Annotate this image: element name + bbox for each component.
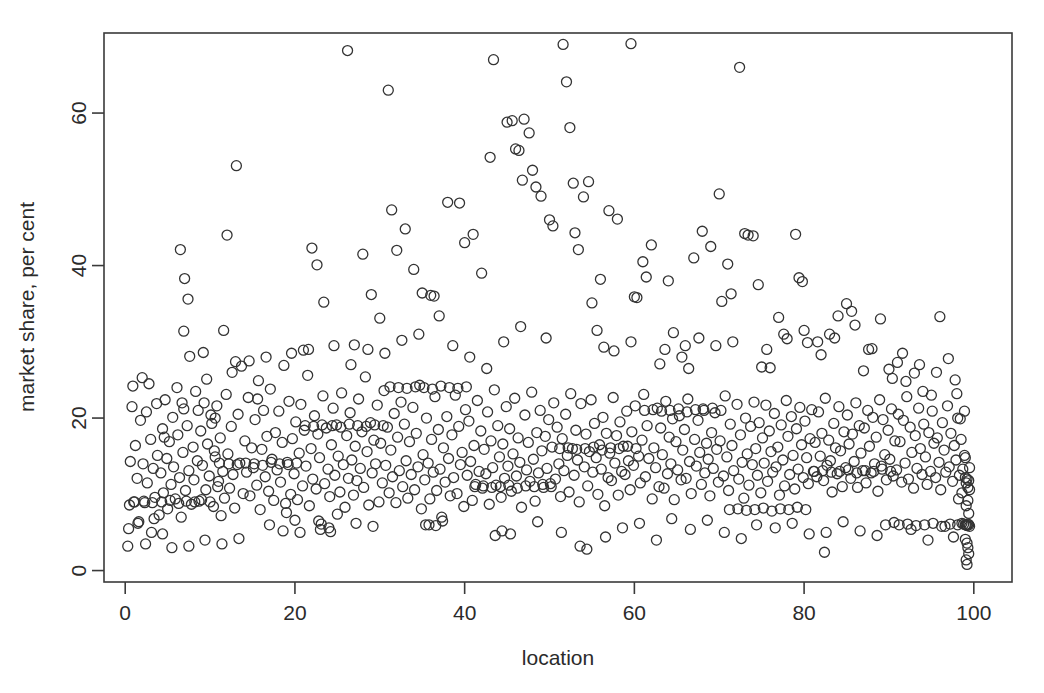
scatter-plot-figure: 020406080100 0204060 location market sha… <box>0 0 1044 693</box>
x-tick-label: 60 <box>623 601 646 624</box>
y-tick-label: 0 <box>67 565 90 577</box>
y-axis-title: market share, per cent <box>15 202 38 412</box>
y-tick-label: 40 <box>67 254 90 277</box>
y-tick-label: 60 <box>67 101 90 124</box>
x-tick-label: 100 <box>956 601 991 624</box>
figure-background <box>0 0 1044 693</box>
x-tick-label: 80 <box>792 601 815 624</box>
x-tick-label: 20 <box>283 601 306 624</box>
y-tick-label: 20 <box>67 406 90 429</box>
plot-canvas: 020406080100 0204060 location market sha… <box>0 0 1044 693</box>
x-tick-label: 40 <box>453 601 476 624</box>
x-axis-title: location <box>522 646 594 669</box>
x-tick-label: 0 <box>119 601 131 624</box>
